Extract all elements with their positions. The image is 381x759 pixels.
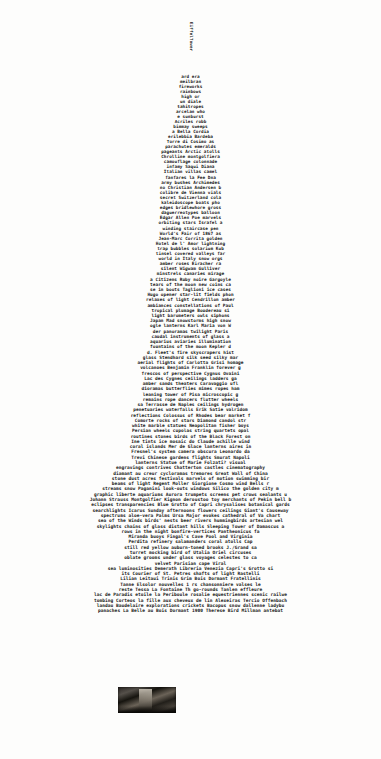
tower-band-upper-platform: parachutes emeraldspageants Arctic atoll… <box>0 144 381 266</box>
tower-text-line: panaches La Belle au Bois Dormant 1900 T… <box>0 608 381 613</box>
typographic-poster: Eiffel Tower ard erameilbranfireworksrai… <box>0 0 381 759</box>
mast-line: Tower <box>188 38 193 51</box>
tower-band-lower-shaft: d. Fleet's fire skyscrapers histglass St… <box>0 350 381 439</box>
mast-line: Eiffel <box>188 22 193 38</box>
tower-mast: Eiffel Tower <box>0 22 381 51</box>
inset-photo-icon <box>118 687 176 713</box>
tower-band-legs: Ine tints ice mosaic do Claude achille w… <box>0 439 381 529</box>
tower-body: ard erameilbranfireworksrainbowshigh oru… <box>0 74 381 614</box>
tower-band-base: rows in the night bonfire-vertices Panth… <box>0 529 381 614</box>
tower-band-mid-shaft: silent Wigwam Gulliverminstrels canaries… <box>0 266 381 349</box>
tower-band-summit: ard erameilbranfireworksrainbowshigh oru… <box>0 74 381 144</box>
